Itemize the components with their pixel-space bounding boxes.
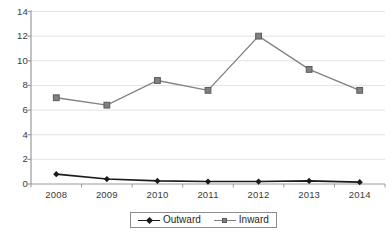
- x-tick-label-2014: 2014: [349, 190, 371, 200]
- x-tick-label-2013: 2013: [298, 190, 320, 200]
- x-tick-label-2011: 2011: [197, 190, 218, 200]
- diamond-marker-icon: [138, 215, 160, 225]
- legend-item-inward[interactable]: Inward: [214, 215, 269, 225]
- legend-marker: [222, 218, 227, 223]
- legend-label: Inward: [239, 215, 269, 225]
- line-chart: 02468101214 2008200920102011201220132014…: [0, 0, 392, 234]
- x-axis-tick-labels: 2008200920102011201220132014: [0, 0, 392, 234]
- legend-marker: [145, 216, 152, 223]
- chart-legend: OutwardInward: [130, 212, 277, 228]
- x-tick-label-2012: 2012: [248, 190, 270, 200]
- square-marker-icon: [214, 215, 236, 225]
- x-tick-label-2008: 2008: [45, 190, 67, 200]
- x-tick-label-2009: 2009: [96, 190, 118, 200]
- x-tick-label-2010: 2010: [146, 190, 168, 200]
- legend-item-outward[interactable]: Outward: [138, 215, 201, 225]
- legend-label: Outward: [163, 215, 201, 225]
